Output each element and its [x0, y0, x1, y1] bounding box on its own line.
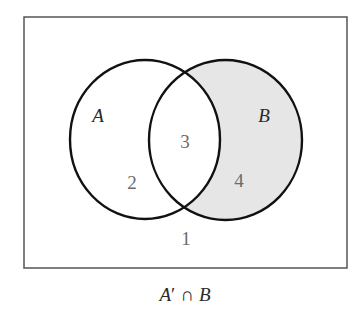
caption-set-b: B [199, 284, 211, 305]
caption-set-a: A [157, 284, 171, 305]
set-a-label: A [90, 105, 104, 126]
region-4-label: 4 [234, 170, 244, 191]
region-3-label: 3 [180, 131, 190, 152]
venn-diagram: A B 3 2 4 1 A′∩B [0, 0, 364, 312]
region-2-label: 2 [127, 172, 137, 193]
set-b-label: B [258, 105, 270, 126]
caption-intersection-operator: ∩ [180, 284, 194, 305]
diagram-caption: A′∩B [157, 284, 211, 305]
region-1-label: 1 [181, 228, 191, 249]
caption-prime: ′ [171, 284, 175, 305]
